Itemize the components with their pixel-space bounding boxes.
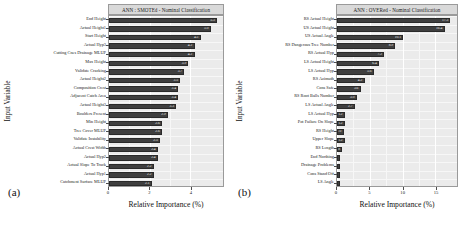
y-axis-tick [106, 45, 109, 46]
bar-row [337, 164, 340, 169]
y-axis-tick [106, 19, 109, 20]
x-axis-tick-label: 0 [335, 190, 337, 195]
bar-row: 4.2 [109, 52, 195, 57]
y-category-label: Catchment Surface MLUP [60, 180, 106, 184]
bar-value-label: 2.4 [151, 148, 156, 152]
y-category-label: Actual Slope To Track [67, 163, 106, 167]
bar: 6.4 [337, 61, 379, 66]
bar-value-label: 2.2 [147, 165, 152, 169]
bar: 3.5 [109, 78, 180, 83]
panel-b-bars: 17.316.410.18.97.26.45.64.23.63.02.71.21… [337, 16, 457, 186]
y-axis-tick [106, 140, 109, 141]
bar-row: 4.5 [109, 35, 201, 40]
bar-row: 2.1 [109, 181, 152, 186]
bar: 5.3 [109, 18, 217, 23]
y-category-label: Composition Crest [74, 86, 106, 90]
y-axis-tick [334, 88, 337, 89]
bar: 3.7 [109, 69, 184, 74]
bar-row: 16.4 [337, 26, 445, 31]
bar-value-label: 1.2 [338, 122, 343, 126]
y-axis-tick [106, 105, 109, 106]
y-axis-tick [334, 37, 337, 38]
bar-value-label: 3.9 [182, 62, 187, 66]
y-category-label: Validate Cracking [75, 69, 106, 73]
panel-a: ANN : SMOTEd - Nominal Classification 5.… [0, 0, 232, 225]
bar-value-label: 6.4 [372, 62, 377, 66]
y-category-label: LS Angle [318, 180, 334, 184]
y-axis-tick [334, 166, 337, 167]
bar-value-label: 2.6 [155, 130, 160, 134]
bar-value-label: 3.5 [174, 79, 179, 83]
x-axis-tick-label: 4 [190, 190, 192, 195]
y-axis-tick [334, 80, 337, 81]
y-category-label: Max Height [85, 60, 106, 64]
bar-row: 3.6 [337, 86, 361, 91]
bar-row: 3.3 [109, 104, 176, 109]
panel-a-plot-area: 5.35.04.54.24.23.93.73.53.43.43.32.92.62… [108, 15, 224, 187]
bar-row: 3.0 [337, 95, 357, 100]
bar-value-label: 17.3 [442, 19, 448, 23]
y-axis-tick [334, 183, 337, 184]
y-category-label: Cons Stand Off [307, 172, 334, 176]
bar: 4.2 [109, 52, 195, 57]
y-axis-tick [334, 131, 337, 132]
bar-value-label: 4.2 [188, 53, 193, 57]
y-category-label: Adjacent Catch Area [70, 94, 106, 98]
bar-value-label: 3.4 [172, 96, 177, 100]
bar-value-label: 1.2 [338, 139, 343, 143]
x-axis-tick-label: 10 [400, 190, 405, 195]
panel-b-caption: (b) [238, 186, 251, 198]
bar-value-label: 5.6 [367, 70, 372, 74]
bar-row: 2.2 [109, 164, 154, 169]
y-category-label: Cons Safe [316, 86, 334, 90]
bar: 3.0 [337, 95, 357, 100]
bar-row: 3.4 [109, 95, 178, 100]
bar-value-label: 2.2 [147, 173, 152, 177]
y-category-label: Actual Hyp3 [84, 43, 106, 47]
bar: 2.4 [109, 155, 158, 160]
bar-row: 4.2 [337, 78, 365, 83]
x-axis-tick-label: 0 [107, 190, 109, 195]
bar-row: 1.2 [337, 121, 345, 126]
panel-b: ANN : OVERed - Nominal Classification 17… [232, 0, 464, 225]
bar-value-label: 3.0 [350, 96, 355, 100]
bar-row: 1.2 [337, 138, 345, 143]
bar: 2.7 [337, 104, 355, 109]
y-category-label: LS Actual Height [304, 60, 334, 64]
y-axis-tick [106, 54, 109, 55]
y-axis-tick [106, 157, 109, 158]
bar-row: 4.2 [109, 43, 195, 48]
bar [337, 172, 340, 177]
bar: 10.1 [337, 35, 403, 40]
bar-value-label: 8.9 [389, 44, 394, 48]
bar-row: 5.6 [337, 69, 374, 74]
bar-row: 2.7 [337, 104, 355, 109]
y-axis-tick [106, 80, 109, 81]
bar-row: 5.3 [109, 18, 217, 23]
bar-row [337, 181, 339, 186]
bar: 4.2 [109, 43, 195, 48]
y-category-label: RS Height [316, 129, 334, 133]
bar-row: 2.4 [109, 155, 158, 160]
bar-row: 2.2 [109, 172, 154, 177]
figure-root: ANN : SMOTEd - Nominal Classification 5.… [0, 0, 464, 225]
y-category-label: Start Height [85, 34, 106, 38]
bar-row: 2.6 [109, 129, 162, 134]
bar-row: 2.5 [109, 138, 160, 143]
bar-value-label: 2.4 [151, 156, 156, 160]
panel-b-y-axis-title: Input Variable [236, 41, 244, 161]
bar: 3.6 [337, 86, 361, 91]
bar: 4.5 [109, 35, 201, 40]
y-category-label: Cutting Cnes Drainage MLUP [54, 51, 106, 55]
bar-row: 2.4 [109, 147, 158, 152]
bar-row: 17.3 [337, 18, 450, 23]
bar-row: 2.6 [109, 121, 162, 126]
y-axis-tick [334, 62, 337, 63]
panel-b-title-strip: ANN : OVERed - Nominal Classification [336, 4, 458, 15]
bar-value-label: 3.4 [172, 87, 177, 91]
bar-row: 3.4 [109, 86, 178, 91]
y-category-label: RS Root Balls Number [294, 94, 334, 98]
panel-a-title: ANN : SMOTEd - Nominal Classification [122, 7, 210, 13]
bar-value-label: 4.2 [358, 79, 363, 83]
y-category-label: US Actual Height [303, 26, 334, 30]
